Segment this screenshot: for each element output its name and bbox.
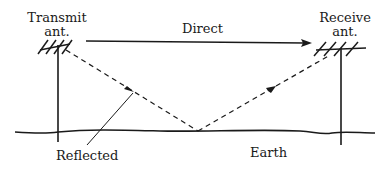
reflected-ray-label: Reflected (56, 149, 118, 163)
earth-surface-line (15, 130, 375, 134)
transmit-label-line2: ant. (22, 25, 92, 39)
reflected-ray-arrowhead-up-icon (266, 86, 276, 93)
reflected-ray-outgoing (198, 55, 330, 131)
direct-ray-line (86, 41, 305, 43)
receive-label-line1: Receive (310, 11, 380, 25)
direct-ray-label: Direct (182, 22, 223, 36)
transmit-antenna-icon (38, 40, 72, 54)
receive-antenna-label: Receive ant. (310, 11, 380, 39)
reflected-ray-arrowhead-down-icon (124, 86, 134, 92)
receive-antenna-icon (314, 42, 366, 56)
receive-label-line2: ant. (310, 25, 380, 39)
transmit-label-line1: Transmit (22, 11, 92, 25)
reflected-label-leader (87, 93, 133, 145)
transmit-antenna-label: Transmit ant. (22, 11, 92, 39)
earth-label: Earth (250, 146, 287, 160)
